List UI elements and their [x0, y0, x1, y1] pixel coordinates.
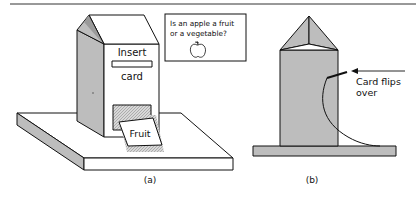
- machine-side: [77, 30, 104, 137]
- machine-body-b: [280, 50, 338, 146]
- machine-roof-b: [280, 16, 338, 50]
- base-plate-b: [253, 146, 396, 156]
- arrow-head-icon: [351, 68, 358, 74]
- diagram-canvas: Insert card Fruit Is an apple a fruit or…: [0, 0, 416, 198]
- caption-b: (b): [306, 175, 319, 185]
- annotation-card-flips: Card flips: [356, 76, 401, 87]
- machine-dot: [92, 92, 94, 94]
- annotation-over: over: [356, 87, 377, 98]
- question-line-2: or a vegetable?: [170, 29, 227, 38]
- caption-a: (a): [144, 175, 157, 185]
- output-card-label: Fruit: [129, 128, 150, 139]
- question-card: Is an apple a fruit or a vegetable?: [165, 14, 246, 61]
- question-line-1: Is an apple a fruit: [170, 19, 234, 28]
- card-slot[interactable]: [112, 61, 152, 67]
- machine-label-card: card: [121, 71, 143, 82]
- machine-label-insert: Insert: [118, 47, 147, 58]
